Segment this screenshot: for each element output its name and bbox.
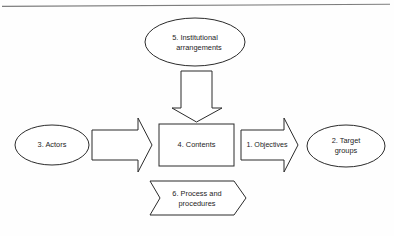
node-process-procedures-label-line2: procedures	[179, 199, 216, 208]
node-target-groups-label-line1: 2. Target	[332, 136, 361, 145]
top-rule-line	[2, 4, 390, 6]
node-actors-label: 3. Actors	[38, 140, 67, 149]
node-target-groups-label-line2: groups	[335, 146, 358, 155]
node-institutional-arrangements-label-line2: arrangements	[176, 43, 222, 52]
flow-diagram: 5. Institutional arrangements 3. Actors …	[0, 0, 394, 236]
node-objectives-label: 1. Objectives	[246, 141, 287, 149]
arrow-institutional-to-contents	[172, 71, 222, 122]
diagram-canvas: 5. Institutional arrangements 3. Actors …	[0, 0, 394, 236]
node-contents-label: 4. Contents	[178, 140, 216, 149]
arrow-actors-to-contents	[92, 118, 152, 172]
node-process-procedures-label-line1: 6. Process and	[172, 189, 221, 198]
node-institutional-arrangements-label-line1: 5. Institutional	[172, 33, 218, 42]
